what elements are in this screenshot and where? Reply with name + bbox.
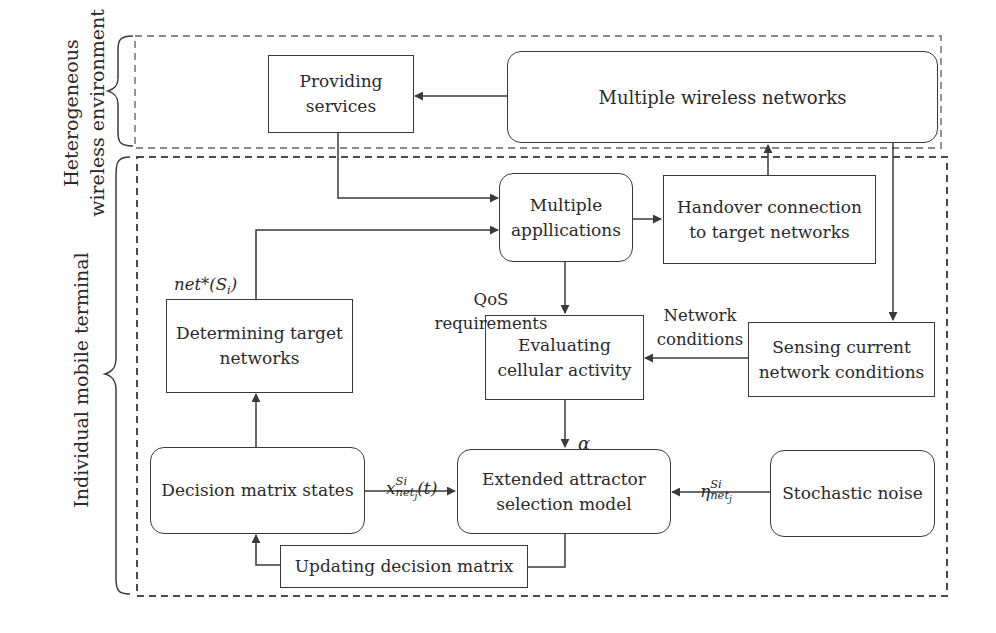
edge-label-eta-noise: ηSinetj [700,455,732,506]
node-label: Extended attractor selection model [482,467,646,517]
heterogeneous-brace [108,36,133,146]
edge-label-net-star: net*(Si) [174,249,237,302]
node-label: Multiple wireless networks [599,85,847,110]
node-updating-decision-matrix[interactable]: Updating decision matrix [280,545,528,588]
node-determining-target-networks[interactable]: Determining target networks [166,299,353,393]
node-stochastic-noise[interactable]: Stochastic noise [770,450,935,537]
edge-extended-to-updating [528,533,565,567]
node-label: Decision matrix states [161,478,353,503]
edge-label-qos-requirements: QoS requirements [426,264,556,336]
node-label: Determining target networks [176,321,343,371]
node-handover-connection[interactable]: Handover connection to target networks [663,175,876,264]
node-multiple-applications[interactable]: Multiple appllications [499,173,633,262]
diagram-canvas: Heterogeneous wireless environment Indiv… [0,0,996,633]
node-extended-attractor-model[interactable]: Extended attractor selection model [457,449,671,534]
node-label: Providing services [300,69,383,119]
terminal-brace [105,157,130,594]
node-label: Evaluating cellular activity [498,333,632,383]
node-providing-services[interactable]: Providing services [268,55,414,133]
edge-label-network-conditions: Network conditions [650,280,750,352]
edge-updating-to-decision [256,535,280,565]
node-decision-matrix-states[interactable]: Decision matrix states [150,447,365,534]
node-multiple-wireless-networks[interactable]: Multiple wireless networks [507,51,938,143]
heterogeneous-region-label: Heterogeneous wireless environment [58,8,110,218]
node-label: Sensing current network conditions [759,335,925,385]
node-label: Handover connection to target networks [677,195,862,245]
node-label: Multiple appllications [511,193,621,243]
node-label: Updating decision matrix [295,554,514,579]
edge-label-alpha: α [578,408,590,456]
terminal-label: Individual mobile terminal [70,252,92,507]
heterogeneous-label-line1: Heterogeneous [58,8,84,218]
node-sensing-network-conditions[interactable]: Sensing current network conditions [748,322,935,397]
node-label: Stochastic noise [782,481,923,506]
edge-label-x-state: xSinetj(t) [386,452,437,503]
edge-providing-to-applications [338,132,498,198]
terminal-region-label: Individual mobile terminal [68,230,94,530]
heterogeneous-label-line2: wireless environment [84,8,110,218]
